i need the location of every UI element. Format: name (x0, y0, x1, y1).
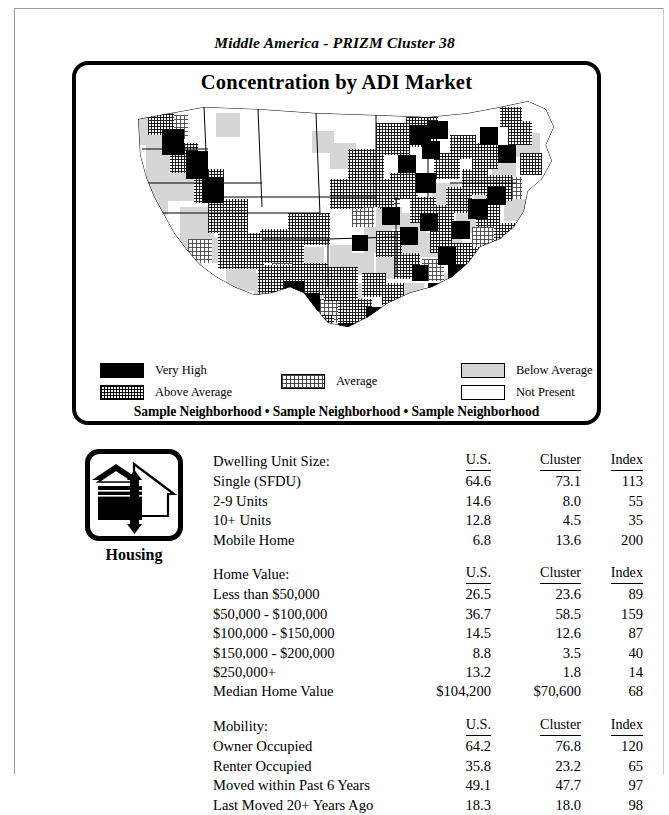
row-index: 40 (587, 644, 643, 663)
row-cluster: 73.1 (495, 471, 587, 491)
table-dwelling-unit-size: Dwelling Unit Size: U.S. Cluster Index S… (213, 450, 643, 550)
table-row: Less than $50,000 26.5 23.6 89 (213, 584, 643, 604)
page-border-right (663, 8, 664, 774)
legend-label-average: Average (336, 374, 377, 389)
row-index: 55 (587, 492, 643, 511)
table-row: $100,000 - $150,000 14.5 12.6 87 (213, 624, 643, 643)
table-header-row: Home Value: U.S. Cluster Index (213, 563, 643, 584)
row-index: 65 (587, 757, 643, 776)
table-row: $250,000+ 13.2 1.8 14 (213, 663, 643, 682)
row-index: 98 (587, 796, 643, 815)
legend-label-below-average: Below Average (516, 363, 592, 378)
row-cluster: 58.5 (495, 605, 587, 624)
column-header-index: Index (587, 450, 643, 471)
row-label: $150,000 - $200,000 (213, 644, 413, 663)
row-cluster: 18.0 (495, 796, 587, 815)
legend-label-above-average: Above Average (155, 385, 232, 400)
row-index: 87 (587, 624, 643, 643)
row-index: 89 (587, 584, 643, 604)
row-label: $250,000+ (213, 663, 413, 682)
housing-icon (85, 449, 183, 541)
table-row: Single (SFDU) 64.6 73.1 113 (213, 471, 643, 491)
row-index: 200 (587, 531, 643, 550)
row-index: 35 (587, 511, 643, 530)
table-row: 2-9 Units 14.6 8.0 55 (213, 492, 643, 511)
row-label: 2-9 Units (213, 492, 413, 511)
legend-item-average: Average (281, 374, 377, 389)
row-cluster: 23.6 (495, 584, 587, 604)
statistics-tables: Dwelling Unit Size: U.S. Cluster Index S… (213, 450, 633, 815)
legend-swatch-average (281, 374, 325, 389)
row-us: $104,200 (413, 682, 495, 701)
row-index: 159 (587, 605, 643, 624)
row-cluster: 3.5 (495, 644, 587, 663)
map-title: Concentration by ADI Market (76, 71, 597, 94)
row-cluster: 47.7 (495, 776, 587, 795)
page-border-top (14, 8, 664, 9)
row-label: Moved within Past 6 Years (213, 776, 413, 795)
row-label: Mobile Home (213, 531, 413, 550)
table-title: Home Value: (213, 563, 413, 584)
row-us: 35.8 (413, 757, 495, 776)
table-mobility: Mobility: U.S. Cluster Index Owner Occup… (213, 715, 643, 815)
row-us: 13.2 (413, 663, 495, 682)
table-row: Mobile Home 6.8 13.6 200 (213, 531, 643, 550)
row-index: 120 (587, 736, 643, 756)
row-cluster: 23.2 (495, 757, 587, 776)
page-border-left (14, 8, 15, 774)
row-label: Owner Occupied (213, 736, 413, 756)
row-index: 14 (587, 663, 643, 682)
row-label: 10+ Units (213, 511, 413, 530)
table-row: $50,000 - $100,000 36.7 58.5 159 (213, 605, 643, 624)
row-us: 18.3 (413, 796, 495, 815)
table-header-row: Dwelling Unit Size: U.S. Cluster Index (213, 450, 643, 471)
column-header-us: U.S. (413, 450, 495, 471)
row-us: 64.6 (413, 471, 495, 491)
table-title: Mobility: (213, 715, 413, 736)
table-row: $150,000 - $200,000 8.8 3.5 40 (213, 644, 643, 663)
row-label: Single (SFDU) (213, 471, 413, 491)
row-label: Less than $50,000 (213, 584, 413, 604)
row-label: Renter Occupied (213, 757, 413, 776)
row-label: Last Moved 20+ Years Ago (213, 796, 413, 815)
table-row: Owner Occupied 64.2 76.8 120 (213, 736, 643, 756)
row-cluster: 8.0 (495, 492, 587, 511)
us-adi-choropleth-map (76, 87, 597, 359)
row-label: Median Home Value (213, 682, 413, 701)
row-us: 36.7 (413, 605, 495, 624)
row-us: 6.8 (413, 531, 495, 550)
column-header-us: U.S. (413, 563, 495, 584)
row-label: $100,000 - $150,000 (213, 624, 413, 643)
row-cluster: $70,600 (495, 682, 587, 701)
column-header-cluster: Cluster (495, 563, 587, 584)
row-us: 14.5 (413, 624, 495, 643)
running-head-title: Middle America - PRIZM Cluster 38 (0, 34, 669, 52)
section-icon-block: Housing (78, 449, 190, 564)
legend-label-very-high: Very High (155, 363, 207, 378)
sample-neighborhoods-caption: Sample Neighborhood • Sample Neighborhoo… (76, 404, 597, 420)
row-us: 12.8 (413, 511, 495, 530)
row-cluster: 13.6 (495, 531, 587, 550)
table-title: Dwelling Unit Size: (213, 450, 413, 471)
legend-label-not-present: Not Present (516, 385, 575, 400)
table-home-value: Home Value: U.S. Cluster Index Less than… (213, 563, 643, 702)
column-header-index: Index (587, 715, 643, 736)
table-row: Last Moved 20+ Years Ago 18.3 18.0 98 (213, 796, 643, 815)
column-header-index: Index (587, 563, 643, 584)
row-cluster: 76.8 (495, 736, 587, 756)
map-legend: Very High Above Average Average Below Av… (76, 363, 597, 421)
table-row: Moved within Past 6 Years 49.1 47.7 97 (213, 776, 643, 795)
row-cluster: 4.5 (495, 511, 587, 530)
column-header-cluster: Cluster (495, 450, 587, 471)
row-index: 68 (587, 682, 643, 701)
table-row: Renter Occupied 35.8 23.2 65 (213, 757, 643, 776)
legend-swatch-not-present (461, 385, 505, 400)
row-us: 49.1 (413, 776, 495, 795)
table-header-row: Mobility: U.S. Cluster Index (213, 715, 643, 736)
legend-item-above-average: Above Average (100, 385, 232, 400)
legend-swatch-very-high (100, 363, 144, 378)
row-cluster: 1.8 (495, 663, 587, 682)
row-index: 113 (587, 471, 643, 491)
table-row: Median Home Value $104,200 $70,600 68 (213, 682, 643, 701)
